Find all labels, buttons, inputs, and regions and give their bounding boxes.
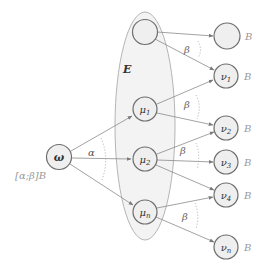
- beta-label-2: β: [183, 99, 190, 110]
- svg-text:ω: ω: [54, 151, 65, 164]
- tag-nu-3: B: [243, 157, 251, 168]
- node-nu-1: ν1: [214, 64, 238, 88]
- beta-arcs: [195, 41, 201, 229]
- tag-nu-2: B: [243, 123, 251, 134]
- node-mu-2: μ2: [133, 147, 157, 171]
- beta-label-4: β: [181, 211, 188, 222]
- tag-nu-4: B: [243, 190, 251, 201]
- node-right-0: [214, 23, 240, 49]
- diagram: E α β β β β ω [α;β]B μ1: [0, 0, 262, 273]
- tag-right-0: B: [244, 31, 252, 42]
- node-middle-0: [133, 20, 158, 45]
- set-e-label: E: [122, 63, 132, 76]
- alpha-label: α: [88, 147, 95, 158]
- omega-annotation: [α;β]B: [15, 170, 46, 181]
- tag-nu-n: B: [243, 242, 251, 253]
- node-mu-n: μn: [133, 200, 157, 224]
- tag-nu-1: B: [243, 71, 251, 82]
- node-mu-1: μ1: [133, 97, 157, 121]
- alpha-arc: [101, 138, 106, 180]
- beta-label-1: β: [183, 44, 190, 55]
- node-omega: ω: [47, 145, 72, 170]
- node-nu-4: ν4: [214, 183, 238, 207]
- node-nu-3: ν3: [214, 150, 238, 174]
- beta-label-3: β: [179, 145, 186, 156]
- node-nu-n: νn: [214, 235, 238, 259]
- node-nu-2: ν2: [214, 116, 238, 140]
